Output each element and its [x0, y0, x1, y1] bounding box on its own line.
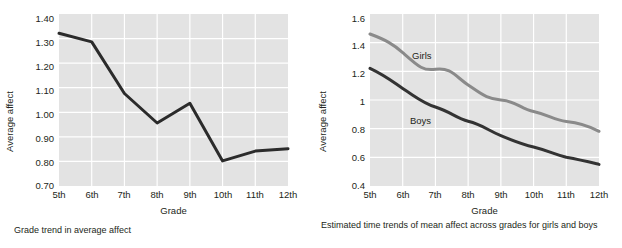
left-x-tick-11th: 11th	[240, 190, 270, 200]
left-chart-caption: Grade trend in average affect	[14, 224, 304, 237]
left-x-axis-title: Grade	[59, 206, 288, 216]
left-x-tick-10th: 10th	[208, 190, 238, 200]
left-x-tick-12th: 12th	[273, 190, 303, 200]
left-chart-panel: Average affect 1.40 1.30 1.20 1.10 1.00 …	[0, 0, 311, 248]
left-x-tick-7th: 7th	[109, 190, 139, 200]
right-chart-figure: Average affect 1.6 1.4 1.2 1 0.8 0.6 0.4	[311, 0, 622, 200]
figure-sheet: Average affect 1.40 1.30 1.20 1.10 1.00 …	[0, 0, 622, 248]
right-series-label-girls: Girls	[412, 50, 432, 61]
right-x-axis-title: Grade	[370, 206, 599, 216]
right-x-tick-7th: 7th	[420, 190, 450, 200]
right-chart-caption: Estimated time trends of mean affect acr…	[321, 219, 611, 232]
left-x-tick-6th: 6th	[77, 190, 107, 200]
left-x-tick-8th: 8th	[142, 190, 172, 200]
right-x-tick-5th: 5th	[355, 190, 385, 200]
left-x-tick-5th: 5th	[44, 190, 74, 200]
left-chart-figure: Average affect 1.40 1.30 1.20 1.10 1.00 …	[0, 0, 311, 200]
right-x-tick-9th: 9th	[486, 190, 516, 200]
left-x-tick-9th: 9th	[175, 190, 205, 200]
left-plot-background	[59, 14, 288, 186]
right-x-tick-6th: 6th	[388, 190, 418, 200]
right-x-tick-11th: 11th	[551, 190, 581, 200]
right-plot-area: Girls Boys	[311, 0, 622, 200]
left-plot-area	[0, 0, 311, 200]
right-x-tick-12th: 12th	[584, 190, 614, 200]
right-x-tick-8th: 8th	[453, 190, 483, 200]
right-series-label-boys: Boys	[410, 115, 431, 126]
right-x-tick-10th: 10th	[519, 190, 549, 200]
right-chart-panel: Average affect 1.6 1.4 1.2 1 0.8 0.6 0.4	[311, 0, 622, 248]
